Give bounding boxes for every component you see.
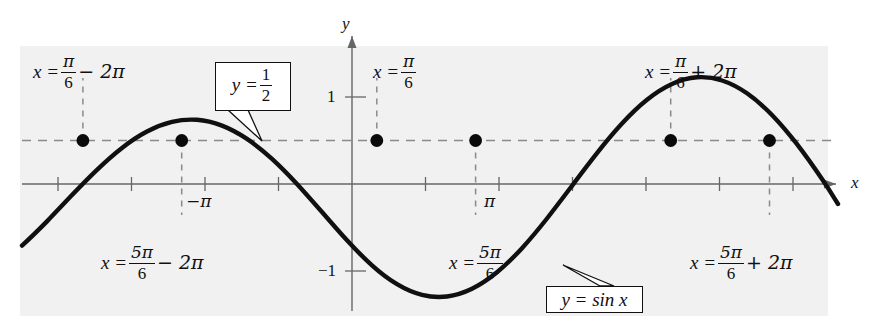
annotation-x-pi-over-6-plus-2pi: x =π6+ 2π [645, 54, 737, 93]
fraction-denominator: 6 [673, 73, 688, 92]
fraction: π6 [401, 53, 416, 92]
y-axis-label: y [342, 14, 350, 34]
fraction-numerator: π [673, 53, 688, 73]
fraction-denominator: 6 [718, 264, 744, 283]
fraction-denominator: 6 [61, 73, 76, 92]
annotation-suffix: + 2π [690, 60, 737, 82]
fraction: 5π6 [477, 244, 503, 283]
fraction-numerator: π [61, 53, 76, 73]
annotation-prefix: x = [33, 61, 59, 82]
annotation-x-5pi-over-6-plus-2pi: x =5π6+ 2π [690, 245, 793, 284]
annotation-suffix: − 2π [78, 60, 125, 82]
intersection-dot [370, 134, 383, 147]
intersection-dot [469, 134, 482, 147]
sine-callout-box: y = sin x [546, 286, 643, 313]
half-line-callout-text: y =12 [232, 67, 275, 106]
sine-callout-leader [563, 265, 614, 286]
y-axis [348, 36, 357, 311]
annotation-prefix: x = [645, 61, 671, 82]
y-tick-label-minus-1: −1 [318, 261, 336, 281]
annotation-prefix: x = [373, 61, 399, 82]
fraction-numerator: 1 [260, 66, 273, 86]
fraction-numerator: 5π [129, 244, 155, 264]
annotation-suffix: − 2π [157, 251, 204, 273]
annotation-x-pi-over-6-minus-2pi: x =π6− 2π [33, 54, 125, 93]
annotation-x-5pi-over-6: x =5π6 [449, 245, 505, 284]
fraction: π6 [673, 53, 688, 92]
x-tick-label-pi: π [484, 191, 495, 211]
annotation-x-5pi-over-6-minus-2pi: x =5π6− 2π [101, 245, 204, 284]
fraction-denominator: 6 [401, 73, 416, 92]
annotation-prefix: x = [449, 252, 475, 273]
x-axis [22, 180, 836, 189]
y-tick-label-1: 1 [327, 87, 336, 107]
intersection-dot [664, 134, 677, 147]
fraction: 12 [260, 66, 273, 105]
intersection-dot [175, 134, 188, 147]
fraction: 5π6 [718, 244, 744, 283]
fraction-denominator: 6 [129, 264, 155, 283]
fraction-denominator: 2 [260, 86, 273, 105]
x-axis-label: x [851, 173, 859, 193]
sine-callout-text: y = sin x [561, 289, 627, 311]
fraction: π6 [61, 53, 76, 92]
graph-drawing-layer [0, 0, 873, 335]
fraction-numerator: 5π [718, 244, 744, 264]
fraction-numerator: 5π [477, 244, 503, 264]
annotation-prefix: x = [690, 252, 716, 273]
intersection-dot [77, 134, 90, 147]
annotation-suffix: + 2π [746, 251, 793, 273]
half-line-callout-box: y =12 [215, 62, 291, 111]
fraction-denominator: 6 [477, 264, 503, 283]
fraction: 5π6 [129, 244, 155, 283]
callout-prefix: y = [232, 74, 258, 95]
annotation-prefix: x = [101, 252, 127, 273]
intersection-dot [763, 134, 776, 147]
annotation-x-pi-over-6: x =π6 [373, 54, 418, 93]
fraction-numerator: π [401, 53, 416, 73]
trigonometric-graph-figure: x y 1 −1 −π π x =π6− 2π x =5π6− 2π x =π6… [0, 0, 873, 335]
x-tick-label-minus-pi: −π [186, 191, 211, 211]
